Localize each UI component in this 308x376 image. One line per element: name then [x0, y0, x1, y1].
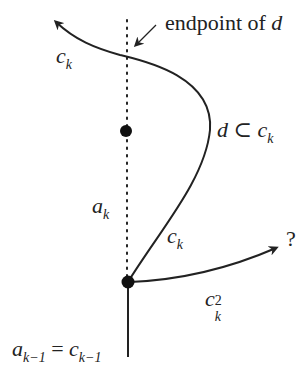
- bottom-equation-label: ak−1 = ck−1: [12, 338, 102, 360]
- curve-ck2: [130, 248, 276, 282]
- upper-node: [120, 125, 132, 137]
- ck2-label: c2k: [205, 288, 225, 310]
- ak-label: ak: [92, 195, 109, 217]
- endpoint-label: endpoint of d: [165, 12, 282, 34]
- ck-top-label: ck: [56, 45, 72, 67]
- d-subset-ck-label: d ⊂ ck: [217, 119, 273, 141]
- diagram-canvas: [0, 0, 308, 376]
- curve-ck: [56, 22, 210, 282]
- bottom-node: [122, 276, 135, 289]
- ck-mid-label: ck: [167, 225, 183, 247]
- question-label: ?: [286, 228, 296, 250]
- endpoint-pointer-arrow: [136, 25, 156, 45]
